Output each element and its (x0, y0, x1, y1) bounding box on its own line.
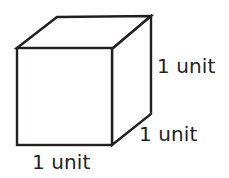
width-dimension-label: 1 unit (32, 152, 90, 172)
unit-cube-figure: 1 unit 1 unit 1 unit (0, 0, 229, 178)
depth-dimension-label: 1 unit (139, 124, 197, 144)
cube-front-face (17, 48, 112, 145)
height-dimension-label: 1 unit (157, 56, 215, 76)
